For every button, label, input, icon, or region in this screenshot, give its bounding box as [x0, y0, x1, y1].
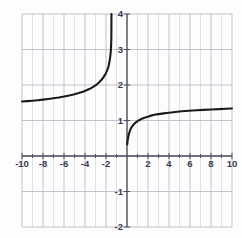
- y-tick-label: 2: [118, 79, 123, 90]
- curve-left-branch: [22, 14, 111, 102]
- graph-figure: -10-8-6-4-2246810 4321-1-2: [0, 0, 242, 238]
- x-axis-tick-labels: -10-8-6-4-2246810: [15, 158, 237, 169]
- x-tick-label: 2: [145, 158, 150, 169]
- x-tick-label: 6: [187, 158, 192, 169]
- function-graph-plot: -10-8-6-4-2246810 4321-1-2: [0, 0, 242, 238]
- y-tick-label: -2: [115, 221, 123, 232]
- y-tick-label: 4: [118, 8, 124, 19]
- x-tick-label: -6: [60, 158, 68, 169]
- x-tick-label: -4: [81, 158, 90, 169]
- x-tick-label: 8: [208, 158, 213, 169]
- y-tick-label: 1: [118, 115, 124, 126]
- y-tick-label: -1: [115, 186, 124, 197]
- x-tick-label: 10: [227, 158, 238, 169]
- x-tick-label: -2: [102, 158, 110, 169]
- x-tick-label: 4: [166, 158, 172, 169]
- y-tick-label: 3: [118, 44, 123, 55]
- x-tick-label: -10: [15, 158, 29, 169]
- x-tick-label: -8: [39, 158, 47, 169]
